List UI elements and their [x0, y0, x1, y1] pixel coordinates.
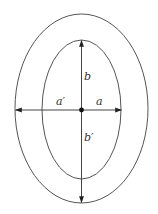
label-a: a: [96, 95, 103, 108]
label-a-prime: a′: [56, 95, 66, 108]
label-b: b: [84, 70, 91, 83]
ellipse-diagram: b b′ a′ a: [0, 0, 158, 214]
center-point: [79, 108, 84, 113]
label-b-prime: b′: [84, 131, 94, 144]
